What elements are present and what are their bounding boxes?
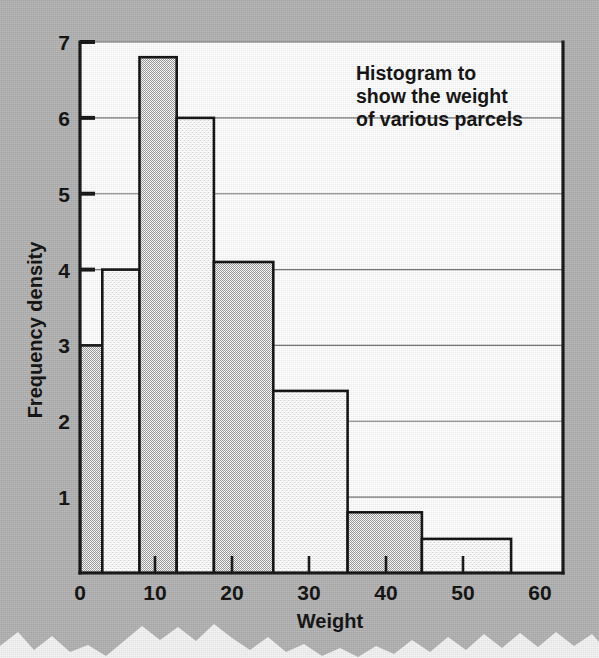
y-tick-label-2: 2 xyxy=(58,410,70,433)
y-tick-label-4: 4 xyxy=(58,259,70,282)
x-tick-label-20: 20 xyxy=(220,581,243,604)
y-tick-label-1: 1 xyxy=(58,486,70,509)
bar-2-5 xyxy=(80,345,102,573)
chart-title-line-2: show the weight xyxy=(356,85,508,107)
x-tick-label-40: 40 xyxy=(374,581,397,604)
y-tick-label-7: 7 xyxy=(58,31,70,54)
y-tick-label-5: 5 xyxy=(58,183,70,206)
chart-title-line-3: of various parcels xyxy=(356,108,523,130)
bar-15-20 xyxy=(177,118,214,573)
y-axis-title: Frequency density xyxy=(24,241,46,419)
x-tick-label-10: 10 xyxy=(143,581,166,604)
histogram-figure: 7 6 5 4 3 2 1 0 10 20 30 40 50 60 Weight… xyxy=(0,0,599,658)
bar-20-28 xyxy=(214,262,273,573)
bar-5-10 xyxy=(102,270,139,573)
x-tick-label-0: 0 xyxy=(74,581,86,604)
histogram-svg: 7 6 5 4 3 2 1 0 10 20 30 40 50 60 Weight… xyxy=(0,0,599,658)
y-tick-label-6: 6 xyxy=(58,107,70,130)
x-axis-title: Weight xyxy=(297,610,364,632)
x-tick-label-30: 30 xyxy=(297,581,320,604)
bar-28-38 xyxy=(273,391,347,573)
chart-title-line-1: Histogram to xyxy=(356,62,476,84)
x-tick-label-60: 60 xyxy=(528,581,551,604)
bar-48-60 xyxy=(422,539,511,573)
x-tick-label-50: 50 xyxy=(451,581,474,604)
y-tick-label-3: 3 xyxy=(58,334,70,357)
bar-10-15 xyxy=(140,57,177,573)
